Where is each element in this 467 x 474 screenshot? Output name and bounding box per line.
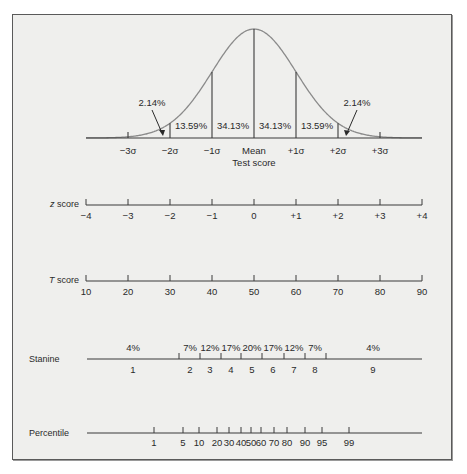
- percentile-label: 5: [180, 437, 185, 448]
- stanine-value: 3: [207, 364, 212, 375]
- sigma-divider-lines: [128, 29, 380, 138]
- scale-tick-label: −4: [81, 210, 92, 221]
- stanine-percent: 4%: [126, 342, 140, 353]
- scale-tick-label: 40: [207, 286, 218, 297]
- area-percent-label: 13.59%: [175, 120, 208, 131]
- stanine-percent: 12%: [200, 342, 220, 353]
- stanine-value: 5: [249, 364, 254, 375]
- z-score-label: z score: [49, 199, 79, 209]
- sigma-label: −2σ: [162, 145, 179, 156]
- percentile-label: Percentile: [29, 428, 69, 438]
- area-percent-labels: 2.14%13.59%34.13%34.13%13.59%2.14%: [139, 97, 371, 131]
- sigma-label: +3σ: [372, 145, 389, 156]
- stanine-value: 9: [370, 364, 375, 375]
- percentile-label: 40: [236, 437, 247, 448]
- stanine-value: 7: [291, 364, 296, 375]
- scale-tick-label: 10: [81, 286, 92, 297]
- percentile-scale: Percentile 151020304050607080909599: [29, 427, 422, 448]
- scale-tick-label: −1: [207, 210, 218, 221]
- percentile-label: 20: [212, 437, 223, 448]
- stanine-value: 6: [270, 364, 275, 375]
- percentile-label: 99: [344, 437, 355, 448]
- stanine-percent: 20%: [242, 342, 262, 353]
- scale-tick-label: −2: [165, 210, 176, 221]
- scale-tick-label: 20: [123, 286, 134, 297]
- curve-xlabel: Test score: [232, 157, 275, 168]
- sigma-label: −1σ: [204, 145, 221, 156]
- scale-tick-label: +4: [417, 210, 428, 221]
- stanine-percent: 17%: [263, 342, 283, 353]
- area-percent-label: 34.13%: [259, 120, 292, 131]
- area-percent-label: 34.13%: [217, 120, 250, 131]
- stanine-percent: 4%: [366, 342, 380, 353]
- stanine-value: 4: [228, 364, 233, 375]
- area-percent-label: 13.59%: [301, 120, 334, 131]
- t-score-scale: T score 102030405060708090: [49, 275, 427, 297]
- stanine-percent: 7%: [183, 342, 197, 353]
- z-score-scale: z score −4−3−2−10+1+2+3+4: [49, 199, 427, 221]
- percentile-label: 1: [151, 437, 156, 448]
- bell-curve-section: −3σ−2σ−1σMean+1σ+2σ+3σ Test score 2.14%1…: [86, 29, 422, 168]
- percentile-label: 60: [256, 437, 267, 448]
- stanine-percent: 17%: [221, 342, 241, 353]
- scale-tick-label: 50: [249, 286, 260, 297]
- scale-tick-label: +2: [333, 210, 344, 221]
- percentile-label: 10: [194, 437, 205, 448]
- stanine-value: 1: [130, 364, 135, 375]
- percentile-label: 50: [246, 437, 257, 448]
- percentile-label: 30: [224, 437, 235, 448]
- scale-tick-label: 80: [375, 286, 386, 297]
- scale-tick-label: +1: [291, 210, 302, 221]
- scale-tick-label: 70: [333, 286, 344, 297]
- scale-tick-label: +3: [375, 210, 386, 221]
- sigma-label: +2σ: [330, 145, 347, 156]
- stanine-label: Stanine: [29, 354, 60, 364]
- scale-tick-label: 0: [251, 210, 256, 221]
- stanine-percent: 12%: [284, 342, 304, 353]
- scale-tick-label: −3: [123, 210, 134, 221]
- sigma-label: Mean: [242, 145, 266, 156]
- scale-tick-label: 30: [165, 286, 176, 297]
- percentile-label: 95: [317, 437, 328, 448]
- t-score-label: T score: [49, 275, 79, 285]
- stanine-percent: 7%: [308, 342, 322, 353]
- stanine-value: 8: [312, 364, 317, 375]
- percentile-label: 70: [269, 437, 280, 448]
- sigma-labels: −3σ−2σ−1σMean+1σ+2σ+3σ: [120, 145, 389, 156]
- scale-tick-label: 90: [417, 286, 428, 297]
- normal-curve-figure: −3σ−2σ−1σMean+1σ+2σ+3σ Test score 2.14%1…: [0, 0, 467, 474]
- sigma-label: +1σ: [288, 145, 305, 156]
- sigma-label: −3σ: [120, 145, 137, 156]
- stanine-scale: Stanine 4%17%212%317%420%517%612%77%84%9: [29, 342, 422, 375]
- scale-tick-label: 60: [291, 286, 302, 297]
- area-percent-label: 2.14%: [344, 97, 371, 108]
- percentile-label: 90: [300, 437, 311, 448]
- stanine-value: 2: [187, 364, 192, 375]
- percentile-label: 80: [282, 437, 293, 448]
- area-percent-label: 2.14%: [139, 97, 166, 108]
